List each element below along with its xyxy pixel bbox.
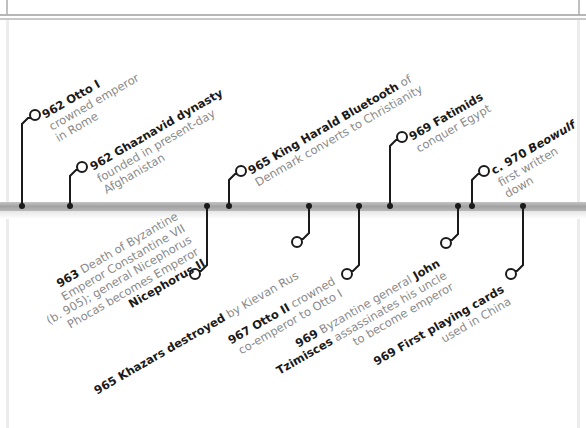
marker-khazars-icon [292, 237, 302, 247]
marker-tzimisces-icon [441, 238, 451, 248]
marker-otto-ii-icon [342, 269, 352, 279]
marker-beowulf-icon [479, 166, 489, 176]
connector-tzimisces [450, 206, 458, 240]
connector-ghaznavid [70, 170, 78, 206]
marker-playing-cards-icon [506, 269, 516, 279]
connector-khazars [301, 206, 309, 239]
marker-otto-i-icon [30, 110, 40, 120]
connector-fatimids [390, 140, 398, 206]
marker-fatimids-icon [397, 132, 407, 142]
connector-otto-ii [351, 206, 359, 271]
connector-harald [229, 174, 237, 206]
marker-harald-icon [236, 166, 246, 176]
marker-ghaznavid-icon [77, 162, 87, 172]
connector-beowulf [472, 174, 480, 206]
connector-playing-cards [515, 206, 523, 271]
connector-otto-i [22, 118, 31, 206]
